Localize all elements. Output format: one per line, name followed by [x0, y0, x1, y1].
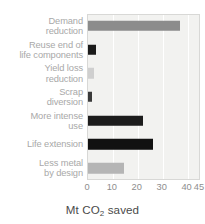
bar-row: More intense use [0, 109, 205, 133]
category-label: Less metal by design [0, 158, 83, 179]
bar-row: Life extension [0, 133, 205, 157]
category-label: Reuse end of life components [0, 39, 83, 60]
category-label: Scrap diversion [0, 87, 83, 108]
bar-chart: Demand reductionReuse end of life compon… [0, 0, 205, 224]
x-tick-label: 0 [84, 182, 89, 192]
bar [88, 21, 180, 32]
x-tick-label: 20 [132, 182, 142, 192]
x-axis-tick-labels: 01020304045 [0, 182, 205, 196]
bar-row: Demand reduction [0, 14, 205, 38]
bar [88, 139, 153, 150]
x-axis-title: Mt CO2 saved [0, 203, 205, 218]
bar [88, 68, 94, 79]
x-axis-title-prefix: Mt CO [66, 203, 100, 216]
x-tick-label: 30 [156, 182, 166, 192]
bar-row: Reuse end of life components [0, 38, 205, 62]
bar-rows: Demand reductionReuse end of life compon… [0, 14, 205, 180]
bar-row: Less metal by design [0, 156, 205, 180]
bar [88, 92, 92, 103]
bar-row: Scrap diversion [0, 85, 205, 109]
bar-row: Yield loss reduction [0, 61, 205, 85]
x-tick-label: 10 [107, 182, 117, 192]
bar [88, 163, 124, 174]
x-tick-label: 40 [181, 182, 191, 192]
x-tick-label: 45 [194, 182, 204, 192]
bar [88, 44, 96, 55]
x-axis-title-suffix: saved [104, 203, 139, 216]
bar [88, 115, 143, 126]
category-label: Demand reduction [0, 16, 83, 37]
category-label: More intense use [0, 110, 83, 131]
category-label: Life extension [0, 139, 83, 149]
category-label: Yield loss reduction [0, 63, 83, 84]
